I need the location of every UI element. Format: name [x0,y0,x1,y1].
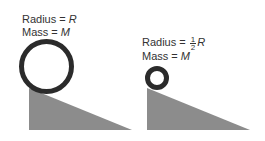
left-radius-label: Radius = R [22,13,77,26]
left-radius-text: Radius = [22,13,69,25]
right-mass-text: Mass = [142,50,181,62]
left-ring [22,42,72,92]
right-mass-value: M [181,50,190,62]
right-mass-label: Mass = M [142,50,190,63]
right-incline [147,88,250,130]
left-incline [29,88,132,130]
left-mass-text: Mass = [22,26,61,38]
left-radius-value: R [69,13,77,25]
left-mass-value: M [61,26,70,38]
half-fraction: 12 [190,36,196,51]
right-radius-label: Radius = 12R [142,36,205,51]
fraction-denominator: 2 [190,44,196,51]
right-ring [148,69,167,88]
right-radius-value: R [197,36,205,48]
right-radius-text: Radius = [142,36,189,48]
left-mass-label: Mass = M [22,26,70,39]
